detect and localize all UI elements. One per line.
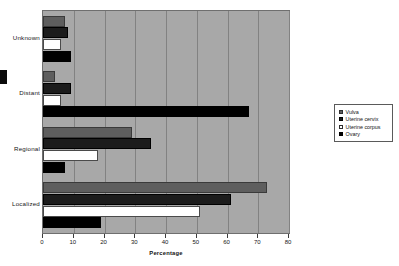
y-axis-label-distant: Distant bbox=[0, 89, 40, 96]
x-axis-tick-label: 30 bbox=[131, 239, 138, 245]
chart-figure: Unknown Distant Regional Localized 01020… bbox=[0, 0, 399, 266]
bar-ovary-localized bbox=[43, 217, 101, 228]
y-axis-label-localized: Localized bbox=[0, 200, 40, 207]
bars-layer bbox=[43, 11, 289, 233]
y-axis-label-regional: Regional bbox=[0, 145, 40, 152]
bar-uterine-cervix-localized bbox=[43, 194, 231, 205]
bar-uterine-cervix-distant bbox=[43, 83, 71, 94]
legend: Vulva Uterine cervix Uterine corpus Ovar… bbox=[334, 104, 393, 142]
x-axis-tick bbox=[196, 234, 197, 238]
x-axis-tick-label: 10 bbox=[69, 239, 76, 245]
x-axis-title: Percentage bbox=[42, 250, 290, 256]
x-axis-tick-label: 70 bbox=[254, 239, 261, 245]
legend-label: Ovary bbox=[346, 131, 360, 137]
x-axis-tick bbox=[104, 234, 105, 238]
bar-uterine-corpus-localized bbox=[43, 206, 200, 217]
x-axis-tick bbox=[73, 234, 74, 238]
y-axis-label-unknown: Unknown bbox=[0, 34, 40, 41]
legend-label: Uterine cervix bbox=[346, 116, 379, 122]
bar-vulva-unknown bbox=[43, 16, 65, 27]
x-axis-tick-label: 50 bbox=[192, 239, 199, 245]
x-axis-tick bbox=[134, 234, 135, 238]
x-axis-tick bbox=[165, 234, 166, 238]
bar-ovary-distant bbox=[43, 106, 249, 117]
x-axis-tick-label: 80 bbox=[285, 239, 292, 245]
x-axis-tick bbox=[288, 234, 289, 238]
gridline bbox=[289, 11, 290, 233]
bar-uterine-corpus-regional bbox=[43, 150, 98, 161]
legend-item-uterine-cervix: Uterine cervix bbox=[339, 116, 389, 122]
bar-uterine-corpus-distant bbox=[43, 95, 61, 106]
legend-label: Uterine corpus bbox=[346, 124, 381, 130]
legend-item-uterine-corpus: Uterine corpus bbox=[339, 124, 389, 130]
bar-uterine-cervix-regional bbox=[43, 138, 151, 149]
legend-swatch-icon bbox=[339, 132, 343, 136]
bar-vulva-regional bbox=[43, 127, 132, 138]
legend-item-ovary: Ovary bbox=[339, 131, 389, 137]
x-axis-tick bbox=[227, 234, 228, 238]
legend-swatch-icon bbox=[339, 125, 343, 129]
bar-group-localized bbox=[43, 178, 289, 234]
legend-item-vulva: Vulva bbox=[339, 109, 389, 115]
bar-vulva-localized bbox=[43, 182, 267, 193]
y-axis: Unknown Distant Regional Localized bbox=[0, 10, 40, 234]
bar-vulva-distant bbox=[43, 71, 55, 82]
legend-swatch-icon bbox=[339, 110, 343, 114]
x-axis-tick-label: 60 bbox=[223, 239, 230, 245]
bar-group-distant bbox=[43, 67, 289, 123]
bar-group-unknown bbox=[43, 11, 289, 67]
x-axis-tick-label: 0 bbox=[40, 239, 43, 245]
bar-uterine-cervix-unknown bbox=[43, 27, 68, 38]
x-axis-tick bbox=[257, 234, 258, 238]
bar-ovary-regional bbox=[43, 162, 65, 173]
x-axis-tick-label: 20 bbox=[100, 239, 107, 245]
legend-label: Vulva bbox=[346, 109, 359, 115]
plot-area bbox=[42, 10, 290, 234]
legend-swatch-icon bbox=[339, 117, 343, 121]
x-axis-tick bbox=[42, 234, 43, 238]
bar-uterine-corpus-unknown bbox=[43, 39, 61, 50]
x-axis-tick-label: 40 bbox=[162, 239, 169, 245]
bar-group-regional bbox=[43, 122, 289, 178]
bar-ovary-unknown bbox=[43, 51, 71, 62]
